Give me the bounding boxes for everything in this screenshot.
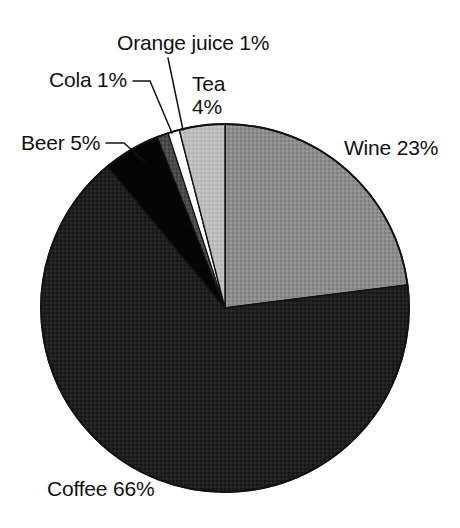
leader-line-orange-juice (168, 58, 183, 130)
pie-label-tea-name: Tea (192, 72, 225, 95)
pie-label-wine: Wine 23% (344, 136, 438, 159)
pie-label-orange-juice: Orange juice 1% (117, 31, 269, 54)
pie-label-coffee: Coffee 66% (47, 477, 154, 500)
pie-chart: Orange juice 1% Cola 1% Beer 5% Tea 4% W… (0, 0, 460, 528)
pie-label-cola: Cola 1% (49, 68, 127, 91)
leader-line-cola (133, 81, 172, 133)
pie-slices (41, 124, 409, 492)
pie-label-tea: Tea 4% (192, 72, 225, 118)
pie-label-tea-value: 4% (192, 95, 225, 118)
pie-label-beer: Beer 5% (21, 131, 100, 154)
